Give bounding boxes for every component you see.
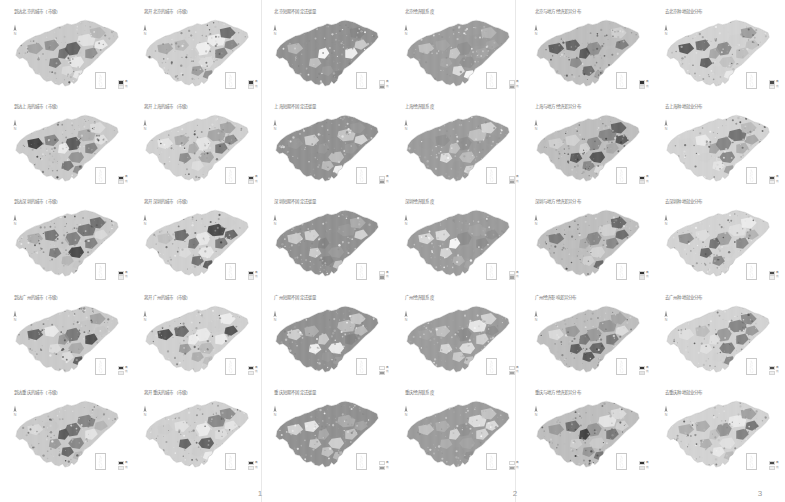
map-tile[interactable]: 到达上海的城市（市级）N高低 xyxy=(2,97,132,192)
map-tile[interactable]: 上海经济联系度N高低 xyxy=(393,97,523,192)
map-tile[interactable]: 重庆与地方经济差异分布N高低 xyxy=(523,383,653,478)
map-tile[interactable]: 北京与地方经济差异分布N高低 xyxy=(523,2,653,97)
map-tile[interactable]: 广州短期不固定迁徙量N高低 xyxy=(262,288,392,383)
china-choropleth-map[interactable] xyxy=(393,105,523,190)
map-tile[interactable]: 离开重庆的城市（市级）N高低 xyxy=(132,383,262,478)
china-choropleth-map[interactable] xyxy=(523,105,653,190)
china-choropleth-map[interactable] xyxy=(262,296,392,381)
china-choropleth-map[interactable] xyxy=(393,391,523,476)
map-tile[interactable]: 去重庆种地就业分布N高低 xyxy=(653,383,783,478)
map-legend-icon: 高低 xyxy=(639,176,649,185)
china-choropleth-map[interactable] xyxy=(262,10,392,95)
map-legend-icon: 高低 xyxy=(118,176,128,185)
china-choropleth-map[interactable] xyxy=(262,391,392,476)
china-choropleth-map[interactable] xyxy=(132,105,262,190)
legend-label-high: 高 xyxy=(776,81,779,84)
china-choropleth-map[interactable] xyxy=(132,10,262,95)
map-tile[interactable]: 离开北京的城市（市级）N高低 xyxy=(132,2,262,97)
map-tile[interactable]: 到达北京的城市（市级）N高低 xyxy=(2,2,132,97)
page-number-3: 3 xyxy=(740,489,780,498)
legend-swatch xyxy=(769,180,775,184)
china-choropleth-map[interactable] xyxy=(2,200,132,285)
china-choropleth-map[interactable] xyxy=(653,296,783,381)
map-tile[interactable]: 去北京种地就业分布N高低 xyxy=(653,2,783,97)
china-choropleth-map[interactable] xyxy=(2,10,132,95)
china-choropleth-map[interactable] xyxy=(2,105,132,190)
legend-label-high: 高 xyxy=(516,367,519,370)
map-tile[interactable]: 深圳与地方经济差异分布N高低 xyxy=(523,192,653,287)
china-choropleth-map[interactable] xyxy=(393,10,523,95)
china-choropleth-map[interactable] xyxy=(653,200,783,285)
china-choropleth-map[interactable] xyxy=(653,391,783,476)
north-arrow-icon: N xyxy=(12,308,18,320)
map-tile-title: 到达重庆的城市（市级） xyxy=(14,390,60,395)
north-arrow-icon: N xyxy=(142,117,148,129)
map-tile[interactable]: 到达广州的城市（市级）N高低 xyxy=(2,288,132,383)
map-tile[interactable]: 广州经济联系度N高低 xyxy=(393,288,523,383)
china-choropleth-map[interactable] xyxy=(523,10,653,95)
china-choropleth-map[interactable] xyxy=(2,296,132,381)
map-tile[interactable]: 离开广州的城市（市级）N高低 xyxy=(132,288,262,383)
legend-row-low: 低 xyxy=(118,85,128,89)
north-arrow-icon: N xyxy=(403,403,409,415)
legend-label-high: 高 xyxy=(125,81,128,84)
map-tile[interactable]: 到达重庆的城市（市级）N高低 xyxy=(2,383,132,478)
china-choropleth-map[interactable] xyxy=(132,391,262,476)
map-tile[interactable]: 去上海种地就业分布N高低 xyxy=(653,97,783,192)
china-choropleth-map[interactable] xyxy=(393,200,523,285)
map-tile[interactable]: 上海与地方经济差异分布N高低 xyxy=(523,97,653,192)
south-china-sea-inset-icon xyxy=(225,263,236,280)
map-tile[interactable]: 北京短期不固定迁徙量N高低 xyxy=(262,2,392,97)
map-legend-icon: 高低 xyxy=(118,80,128,89)
north-arrow-icon: N xyxy=(403,117,409,129)
map-tile[interactable]: 离开深圳的城市（市级）N高低 xyxy=(132,192,262,287)
legend-swatch xyxy=(509,461,515,465)
map-legend-icon: 高低 xyxy=(379,176,389,185)
china-choropleth-map[interactable] xyxy=(523,391,653,476)
map-tile[interactable]: 广州经济影响差异分布N高低 xyxy=(523,288,653,383)
map-tile[interactable]: 重庆经济联系度N高低 xyxy=(393,383,523,478)
legend-row-low: 低 xyxy=(509,275,519,279)
map-tile[interactable]: 到达深圳的城市（市级）N高低 xyxy=(2,192,132,287)
legend-swatch xyxy=(379,85,385,89)
legend-label-high: 高 xyxy=(776,367,779,370)
legend-label-high: 高 xyxy=(255,81,258,84)
svg-text:N: N xyxy=(534,32,537,36)
china-choropleth-map[interactable] xyxy=(523,200,653,285)
map-grid-sheet: 到达北京的城市（市级）N高低离开北京的城市（市级）N高低北京短期不固定迁徙量N高… xyxy=(0,0,785,502)
legend-label-low: 低 xyxy=(516,371,519,374)
svg-text:N: N xyxy=(14,413,17,417)
map-tile[interactable]: 北京经济联系度N高低 xyxy=(393,2,523,97)
legend-label-low: 低 xyxy=(255,276,258,279)
china-choropleth-map[interactable] xyxy=(132,200,262,285)
legend-swatch xyxy=(118,176,124,180)
legend-label-low: 低 xyxy=(646,276,649,279)
legend-label-high: 高 xyxy=(646,367,649,370)
map-tile[interactable]: 深圳短期不固定迁徙量N高低 xyxy=(262,192,392,287)
svg-text:N: N xyxy=(274,223,277,227)
china-choropleth-map[interactable] xyxy=(653,10,783,95)
legend-label-low: 低 xyxy=(646,467,649,470)
map-tile[interactable]: 深圳经济联系度N高低 xyxy=(393,192,523,287)
legend-swatch xyxy=(379,271,385,275)
china-choropleth-map[interactable] xyxy=(132,296,262,381)
china-choropleth-map[interactable] xyxy=(2,391,132,476)
map-tile[interactable]: 去广州种地就业分布N高低 xyxy=(653,288,783,383)
map-tile[interactable]: 离开上海的城市（市级）N高低 xyxy=(132,97,262,192)
map-tile[interactable]: 重庆短期不固定迁徙量N高低 xyxy=(262,383,392,478)
china-choropleth-map[interactable] xyxy=(262,105,392,190)
map-legend-icon: 高低 xyxy=(509,271,519,280)
legend-label-low: 低 xyxy=(646,86,649,89)
china-choropleth-map[interactable] xyxy=(653,105,783,190)
map-tile[interactable]: 上海短期不固定迁徙量N高低 xyxy=(262,97,392,192)
legend-swatch xyxy=(248,275,254,279)
svg-text:N: N xyxy=(665,223,668,227)
south-china-sea-inset-icon xyxy=(486,358,497,375)
map-tile[interactable]: 去深圳种地就业分布N高低 xyxy=(653,192,783,287)
map-tile-title: 离开北京的城市（市级） xyxy=(144,9,190,14)
china-choropleth-map[interactable] xyxy=(393,296,523,381)
china-choropleth-map[interactable] xyxy=(523,296,653,381)
legend-swatch xyxy=(379,466,385,470)
map-legend-icon: 高低 xyxy=(639,366,649,375)
china-choropleth-map[interactable] xyxy=(262,200,392,285)
